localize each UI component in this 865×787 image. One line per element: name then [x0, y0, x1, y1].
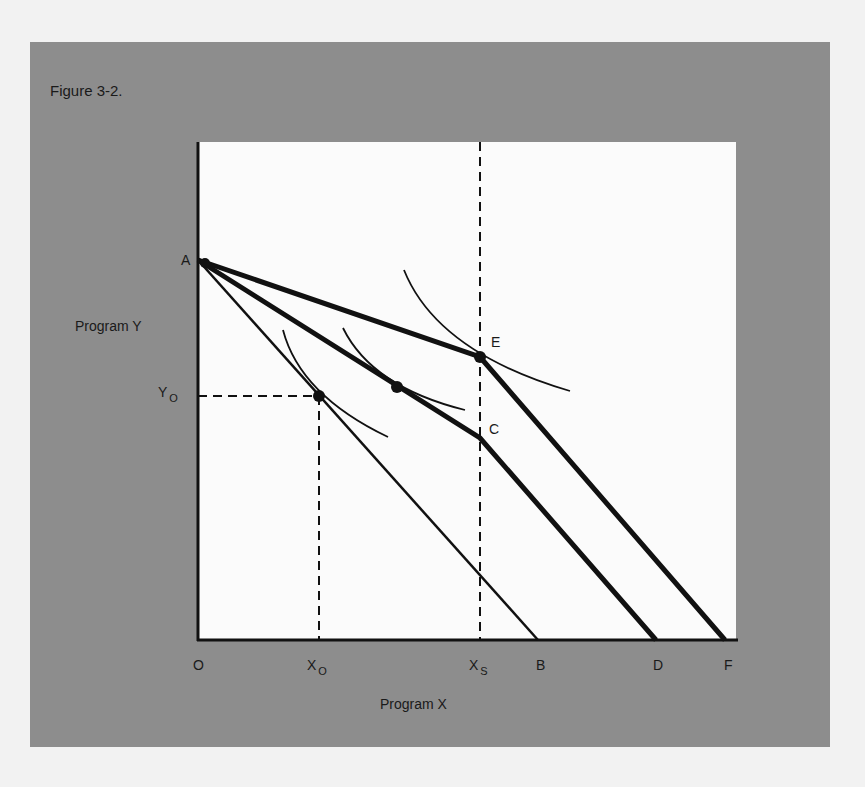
- kink-point-a: [200, 258, 210, 268]
- point-label-b: B: [536, 657, 545, 673]
- point-label-d: D: [653, 657, 663, 673]
- budget-line-aef: [198, 260, 725, 640]
- indifference-curve-3: [404, 270, 570, 391]
- point-label-c: C: [489, 421, 499, 437]
- diagram-canvas: [0, 0, 865, 787]
- tangency-point-e: [474, 351, 486, 363]
- point-label-e: E: [491, 334, 500, 350]
- budget-line-acd: [198, 260, 656, 640]
- x0-tick-label: XO: [307, 657, 327, 673]
- indifference-curve-2: [343, 328, 465, 410]
- y0-tick-label: YO: [158, 384, 178, 400]
- y-axis-label: Program Y: [75, 318, 142, 334]
- point-label-f: F: [724, 657, 733, 673]
- x-axis-label: Program X: [380, 696, 447, 712]
- origin-label: O: [193, 657, 204, 673]
- tangency-point-x0-y0: [313, 390, 325, 402]
- tangency-point-mid: [391, 381, 403, 393]
- point-label-a: A: [181, 252, 190, 268]
- xs-tick-label: XS: [469, 657, 488, 673]
